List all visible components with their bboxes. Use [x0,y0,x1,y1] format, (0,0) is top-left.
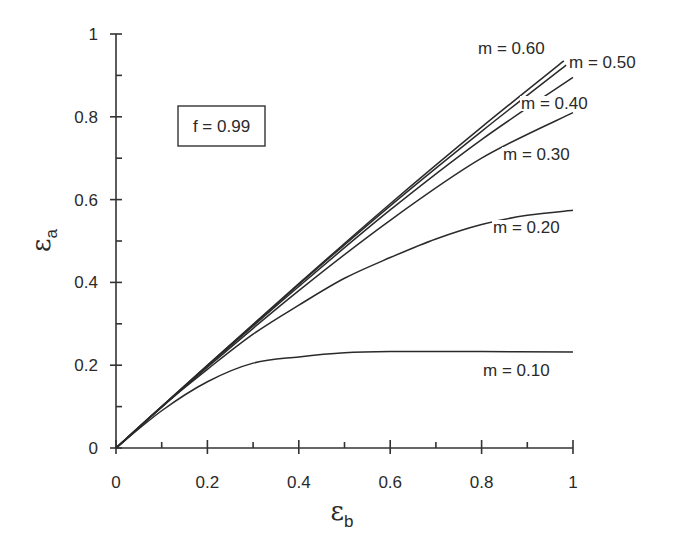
x-tick-label: 0.6 [378,473,402,492]
annotation-text: f = 0.99 [193,117,250,136]
y-axis-title: εa [26,229,61,252]
x-axis-title-symbol: ε [331,496,344,526]
curve-label: m = 0.60 [478,39,545,58]
x-tick-label: 0 [111,473,120,492]
curve-label: m = 0.30 [503,145,570,164]
x-tick-label: 0.4 [287,473,311,492]
series-curve [116,210,573,448]
x-tick-label: 0.8 [470,473,494,492]
axes: 00.20.40.60.8100.20.40.60.81 [74,25,577,492]
y-tick-label: 1 [89,25,98,44]
curve-label: m = 0.20 [493,218,560,237]
x-axis-title: εb [331,496,354,531]
y-tick-label: 0 [89,439,98,458]
curve-labels: m = 0.60m = 0.50m = 0.40m = 0.30m = 0.20… [477,39,637,380]
annotation: f = 0.99 [178,106,265,146]
y-tick-label: 0.2 [74,356,98,375]
x-tick-label: 0.2 [196,473,220,492]
curve-label: m = 0.10 [483,361,550,380]
curve-label: m = 0.40 [521,94,588,113]
y-tick-label: 0.6 [74,191,98,210]
y-axis-title-subscript: a [42,229,61,239]
y-tick-label: 0.4 [74,273,98,292]
y-axis-title-symbol: ε [26,239,56,252]
x-tick-label: 1 [568,473,577,492]
curve-label: m = 0.50 [569,53,636,72]
y-tick-label: 0.8 [74,108,98,127]
x-axis-title-subscript: b [344,512,353,531]
chart: 00.20.40.60.8100.20.40.60.81 m = 0.60m =… [0,0,677,548]
